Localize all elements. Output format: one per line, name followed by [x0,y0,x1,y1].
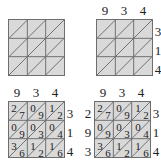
cell-tens-digit: 0 [115,103,123,114]
cell-ones-digit: 4 [142,129,150,140]
lattice-panel-step-1 [0,0,80,80]
lattice-grid [8,19,65,76]
top-label: 3 [117,86,127,99]
right-label: 3 [151,107,161,120]
lattice-panel-step-2: 9 3 4 3 1 4 [80,0,160,80]
right-label: 1 [65,126,75,139]
cell-ones-digit: 9 [18,129,26,140]
lattice-grid: 2 7 0 9 1 2 0 9 0 3 0 4 3 6 1 2 1 6 [94,101,151,158]
top-label: 9 [98,86,108,99]
cell-tens-digit: 0 [96,122,104,133]
top-label: 4 [136,86,146,99]
right-label: 1 [151,126,161,139]
lattice-grid [96,19,153,76]
cell-tens-digit: 3 [10,141,18,152]
cell-tens-digit: 0 [48,122,56,133]
cell-ones-digit: 9 [123,110,131,121]
cell-tens-digit: 2 [96,103,104,114]
left-sum-digit: 2 [83,107,93,120]
lattice-panel-step-4: 9 3 4 2 9 3 2 7 0 9 1 [80,82,160,162]
cell-ones-digit: 2 [37,148,45,159]
top-label: 4 [138,4,148,17]
cell-tens-digit: 1 [48,103,56,114]
cell-ones-digit: 2 [123,148,131,159]
grid-lines [97,20,152,75]
cell-ones-digit: 9 [37,110,45,121]
cell-ones-digit: 6 [18,148,26,159]
right-label: 1 [153,44,161,57]
cell-tens-digit: 1 [29,141,37,152]
left-sum-digit: 9 [83,126,93,139]
cell-ones-digit: 2 [142,110,150,121]
cell-ones-digit: 7 [104,110,112,121]
cell-ones-digit: 3 [37,129,45,140]
top-label: 3 [31,86,41,99]
cell-tens-digit: 0 [29,103,37,114]
cell-ones-digit: 7 [18,110,26,121]
left-sum-digit: 3 [83,145,93,158]
cell-ones-digit: 2 [56,110,64,121]
cell-tens-digit: 1 [134,141,142,152]
cell-tens-digit: 1 [115,141,123,152]
cell-ones-digit: 4 [56,129,64,140]
grid-lines [9,20,64,75]
right-label: 3 [65,107,75,120]
cell-tens-digit: 2 [10,103,18,114]
cell-ones-digit: 9 [104,129,112,140]
cell-tens-digit: 3 [96,141,104,152]
lattice-grid: 2 7 0 9 1 2 0 9 0 3 0 4 3 6 1 2 1 6 [8,101,65,158]
cell-tens-digit: 0 [10,122,18,133]
cell-ones-digit: 6 [104,148,112,159]
cell-tens-digit: 1 [134,103,142,114]
cell-ones-digit: 6 [142,148,150,159]
top-label: 3 [119,4,129,17]
cell-ones-digit: 3 [123,129,131,140]
cell-tens-digit: 1 [48,141,56,152]
cell-tens-digit: 0 [29,122,37,133]
cell-tens-digit: 0 [115,122,123,133]
right-label: 4 [65,145,75,158]
cell-ones-digit: 6 [56,148,64,159]
top-label: 9 [12,86,22,99]
top-label: 9 [100,4,110,17]
right-label: 4 [151,145,161,158]
cell-tens-digit: 0 [134,122,142,133]
right-label: 3 [153,25,161,38]
top-label: 4 [50,86,60,99]
lattice-panel-step-3: 9 3 4 2 7 0 9 1 2 [0,82,80,162]
right-label: 4 [153,63,161,76]
